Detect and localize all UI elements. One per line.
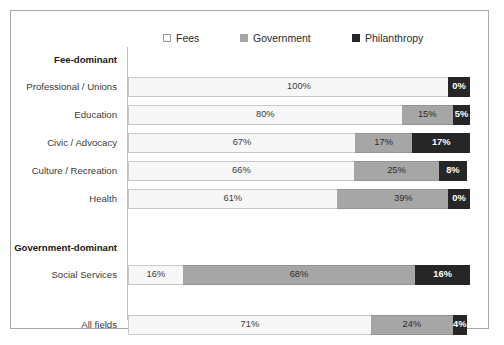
bar-segment-government[interactable]: 15% — [402, 105, 453, 125]
bar-segment-fees[interactable]: 66% — [128, 161, 354, 181]
group-header-row: Fee-dominant — [11, 47, 488, 73]
bar-row: Culture / Recreation66%25%8% — [11, 157, 488, 185]
group-header-label: Government-dominant — [11, 243, 117, 253]
segment-value-label: 5% — [455, 110, 468, 119]
bar-row: Health61%39%0% — [11, 185, 488, 213]
legend-swatch-government-icon — [240, 34, 248, 42]
stacked-bar[interactable]: 66%25%8% — [128, 161, 470, 181]
bar-row: All fields71%24%4% — [11, 311, 488, 339]
category-label: Health — [11, 194, 117, 204]
bar-segment-fees[interactable]: 67% — [128, 133, 355, 153]
stacked-bar[interactable]: 80%15%5% — [128, 105, 470, 125]
bar-segment-philanthropy[interactable]: 16% — [415, 265, 470, 285]
bar-row: Education80%15%5% — [11, 101, 488, 129]
segment-value-label: 80% — [256, 110, 275, 119]
legend-label: Fees — [176, 33, 199, 44]
segment-value-label: 68% — [290, 270, 309, 279]
bar-segment-fees[interactable]: 71% — [128, 315, 371, 335]
category-label: Professional / Unions — [11, 82, 117, 92]
category-label: Education — [11, 110, 117, 120]
chart-frame: FeesGovernmentPhilanthropy Fee-dominantP… — [10, 10, 489, 329]
segment-value-label: 17% — [432, 138, 451, 147]
bar-row: Social Services16%68%16% — [11, 261, 488, 289]
segment-value-label: 67% — [233, 138, 252, 147]
bar-segment-philanthropy[interactable]: 0% — [448, 189, 470, 209]
bar-segment-government[interactable]: 24% — [371, 315, 453, 335]
segment-value-label: 66% — [232, 166, 251, 175]
group-header-label: Fee-dominant — [11, 55, 117, 65]
plot-area: Fee-dominantProfessional / Unions100%0%E… — [11, 47, 488, 328]
stacked-bar[interactable]: 100%0% — [128, 77, 470, 97]
bar-row: Professional / Unions100%0% — [11, 73, 488, 101]
segment-value-label: 0% — [452, 194, 465, 203]
bar-segment-government[interactable]: 17% — [355, 133, 413, 153]
segment-value-label: 15% — [418, 110, 437, 119]
legend-swatch-philanthropy-icon — [352, 34, 360, 42]
group-header-row: Government-dominant — [11, 235, 488, 261]
stacked-bar[interactable]: 61%39%0% — [128, 189, 470, 209]
bar-segment-government[interactable]: 25% — [354, 161, 440, 181]
segment-value-label: 39% — [394, 194, 413, 203]
bar-segment-philanthropy[interactable]: 4% — [453, 315, 467, 335]
chart-legend: FeesGovernmentPhilanthropy — [11, 29, 488, 47]
segment-value-label: 16% — [147, 270, 166, 279]
segment-value-label: 100% — [287, 82, 311, 91]
category-label: All fields — [11, 320, 117, 330]
bar-segment-philanthropy[interactable]: 5% — [453, 105, 470, 125]
legend-item-philanthropy[interactable]: Philanthropy — [352, 29, 423, 47]
legend-label: Philanthropy — [365, 33, 423, 44]
segment-value-label: 17% — [374, 138, 393, 147]
segment-value-label: 4% — [453, 320, 466, 329]
spacer-row — [11, 213, 488, 235]
bar-segment-philanthropy[interactable]: 17% — [412, 133, 470, 153]
segment-value-label: 16% — [433, 270, 452, 279]
segment-value-label: 71% — [241, 320, 260, 329]
bar-segment-fees[interactable]: 80% — [128, 105, 402, 125]
bar-segment-fees[interactable]: 100% — [128, 77, 470, 97]
bar-segment-government[interactable]: 68% — [183, 265, 416, 285]
category-label: Civic / Advocacy — [11, 138, 117, 148]
legend-swatch-fees-icon — [163, 34, 171, 42]
segment-value-label: 0% — [452, 82, 465, 91]
segment-value-label: 24% — [403, 320, 422, 329]
segment-value-label: 61% — [224, 194, 243, 203]
segment-value-label: 25% — [387, 166, 406, 175]
category-label: Social Services — [11, 270, 117, 280]
legend-item-government[interactable]: Government — [240, 29, 311, 47]
bar-row: Civic / Advocacy67%17%17% — [11, 129, 488, 157]
bar-segment-philanthropy[interactable]: 0% — [448, 77, 470, 97]
segment-value-label: 8% — [446, 166, 459, 175]
category-label: Culture / Recreation — [11, 166, 117, 176]
bar-segment-philanthropy[interactable]: 8% — [439, 161, 466, 181]
legend-item-fees[interactable]: Fees — [163, 29, 199, 47]
legend-label: Government — [253, 33, 311, 44]
spacer-row — [11, 289, 488, 311]
bar-segment-fees[interactable]: 61% — [128, 189, 337, 209]
stacked-bar[interactable]: 67%17%17% — [128, 133, 470, 153]
stacked-bar[interactable]: 16%68%16% — [128, 265, 470, 285]
stacked-bar[interactable]: 71%24%4% — [128, 315, 470, 335]
bar-segment-fees[interactable]: 16% — [128, 265, 183, 285]
